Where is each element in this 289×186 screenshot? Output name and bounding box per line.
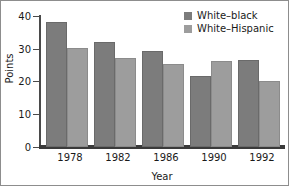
bar-white-hispanic-1990: [211, 61, 232, 147]
bar-group-1978: [46, 16, 88, 147]
bar-group-1990: [190, 16, 232, 147]
bar-white-black-1978: [46, 22, 67, 147]
x-tick-label-1990: 1990: [190, 152, 238, 163]
plot-area: [40, 16, 284, 147]
x-tick-label-1986: 1986: [142, 152, 190, 163]
x-tick-label-1978: 1978: [46, 152, 94, 163]
y-tick-label-0: 0: [3, 142, 31, 153]
bar-white-hispanic-1978: [67, 48, 88, 147]
bar-white-black-1992: [238, 60, 259, 147]
bar-white-hispanic-1982: [115, 58, 136, 147]
x-tick-label-1982: 1982: [94, 152, 142, 163]
x-tick-label-1992: 1992: [238, 152, 286, 163]
bar-white-black-1986: [142, 51, 163, 147]
legend-label-white-hispanic: White–Hispanic: [197, 24, 274, 34]
bar-white-black-1982: [94, 42, 115, 147]
legend-swatch-icon-white-black: [184, 12, 192, 20]
legend-item-white-hispanic: White–Hispanic: [184, 24, 274, 34]
bar-group-1982: [94, 16, 136, 147]
x-axis-title: Year: [40, 171, 284, 182]
y-tick-label-10: 10: [3, 109, 31, 120]
legend-item-white-black: White–black: [184, 11, 274, 21]
legend-label-white-black: White–black: [197, 11, 258, 21]
legend-swatch-icon-white-hispanic: [184, 25, 192, 33]
bar-group-1992: [238, 16, 280, 147]
bar-white-black-1990: [190, 76, 211, 147]
y-tick-label-40: 40: [3, 11, 31, 22]
chart-legend: White–black White–Hispanic: [184, 11, 274, 34]
bar-group-1986: [142, 16, 184, 147]
bar-chart-figure: 40 30 20 10 0 Points Year: [0, 0, 289, 186]
bar-white-hispanic-1992: [259, 81, 280, 147]
y-axis-title: Points: [4, 39, 15, 99]
bar-white-hispanic-1986: [163, 64, 184, 148]
